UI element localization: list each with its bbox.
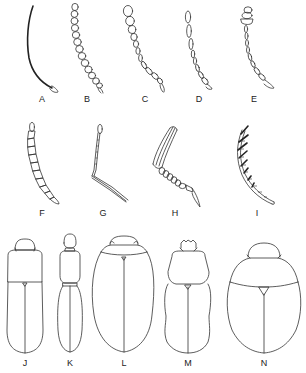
label-e: E — [247, 94, 261, 104]
label-d: D — [192, 94, 206, 104]
antenna-e — [241, 7, 274, 88]
label-m: M — [181, 358, 195, 368]
antenna-a — [28, 6, 58, 92]
antenna-d — [185, 11, 212, 89]
beetle-j — [7, 239, 43, 353]
label-i: I — [250, 208, 264, 218]
figure-plate: A B C D E F G H I J K L M N — [0, 0, 306, 373]
beetle-l — [92, 236, 154, 352]
antenna-b — [71, 3, 103, 93]
label-g: G — [96, 208, 110, 218]
label-h: H — [168, 208, 182, 218]
label-n: N — [257, 358, 271, 368]
beetle-n — [227, 243, 301, 353]
antenna-c — [123, 6, 164, 93]
beetle-k — [58, 234, 83, 352]
label-b: B — [80, 94, 94, 104]
label-j: J — [18, 358, 32, 368]
antenna-f — [28, 123, 59, 205]
label-k: K — [63, 358, 77, 368]
label-l: L — [117, 358, 131, 368]
plate-drawing — [0, 0, 306, 373]
antenna-g — [92, 125, 128, 203]
antenna-i — [238, 126, 275, 204]
antenna-h — [153, 127, 200, 207]
beetle-m — [165, 240, 211, 353]
label-c: C — [138, 94, 152, 104]
label-a: A — [35, 94, 49, 104]
label-f: F — [35, 208, 49, 218]
